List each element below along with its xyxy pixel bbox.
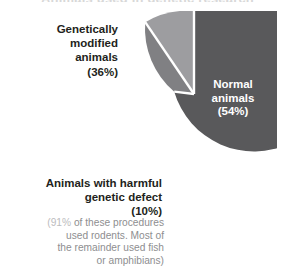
- slice-label-percent: (54%): [196, 105, 270, 119]
- slice-label-line-2: modified: [10, 36, 118, 50]
- slice-label-line-2: animals: [196, 92, 270, 106]
- annotation-highlight: (91%: [47, 217, 71, 228]
- slice-label-line-2: genetic defect: [2, 190, 162, 204]
- slice-label-line-1: Normal: [196, 78, 270, 92]
- annotation-line-4: or amphibians): [0, 255, 164, 268]
- annotation-line-3: the remainder used fish: [0, 242, 164, 255]
- pie-chart-figure: Animals used in genetic research Normal …: [0, 0, 295, 275]
- chart-annotation: (91% of these procedures used rodents. M…: [0, 217, 164, 267]
- chart-title: Animals used in genetic research: [0, 0, 295, 2]
- annotation-line-1: (91% of these procedures: [0, 217, 164, 230]
- slice-label-line-1: Animals with harmful: [2, 176, 162, 190]
- slice-label-line-3: animals: [10, 50, 118, 64]
- slice-label-percent: (36%): [10, 65, 118, 79]
- slice-label-genetically-modified-animals: Genetically modified animals (36%): [10, 22, 118, 79]
- slice-label-normal-animals: Normal animals (54%): [196, 78, 270, 119]
- annotation-line-2: used rodents. Most of: [0, 230, 164, 243]
- slice-label-line-1: Genetically: [10, 22, 118, 36]
- slice-label-harmful-genetic-defect: Animals with harmful genetic defect (10%…: [2, 176, 162, 219]
- annotation-line-1-rest: of these procedures: [71, 217, 164, 228]
